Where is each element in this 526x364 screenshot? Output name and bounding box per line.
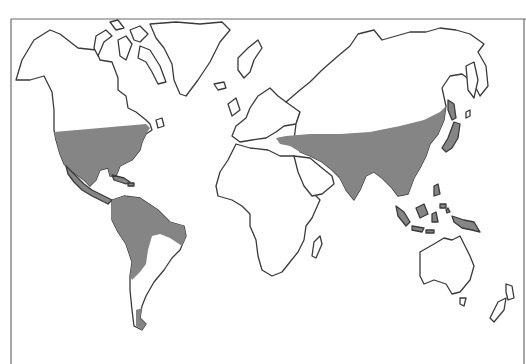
world-map (0, 0, 526, 364)
baffin-island (138, 46, 166, 84)
sulawesi (432, 212, 438, 222)
map-canvas (0, 0, 526, 364)
australia (420, 236, 474, 294)
arctic-islands-1 (94, 30, 112, 56)
arctic-islands-2 (110, 20, 124, 30)
new-zealand-north (506, 284, 514, 300)
kuril-islands (466, 110, 470, 118)
europe-mainland (232, 88, 300, 142)
madagascar (312, 236, 322, 258)
japan (442, 122, 460, 152)
sakhalin (448, 100, 456, 120)
new-zealand-south (490, 298, 506, 322)
tasmania (460, 298, 466, 306)
iceland (214, 82, 226, 90)
arctic-islands-4 (130, 26, 148, 42)
caribbean-island-hispaniola (128, 183, 134, 186)
caribbean-island-cuba (112, 175, 130, 184)
newfoundland (156, 118, 164, 128)
europe-scandinavia (238, 40, 262, 78)
philippines (434, 184, 440, 196)
borneo (416, 204, 428, 218)
shaded-region-north-america (54, 124, 150, 186)
british-isles (228, 98, 240, 116)
small-island-2 (440, 204, 446, 208)
arctic-islands-3 (118, 36, 132, 60)
java (412, 226, 424, 232)
lesser-sunda (426, 230, 434, 233)
new-guinea (452, 216, 480, 232)
small-island-1 (446, 208, 450, 213)
sumatra (396, 206, 410, 226)
